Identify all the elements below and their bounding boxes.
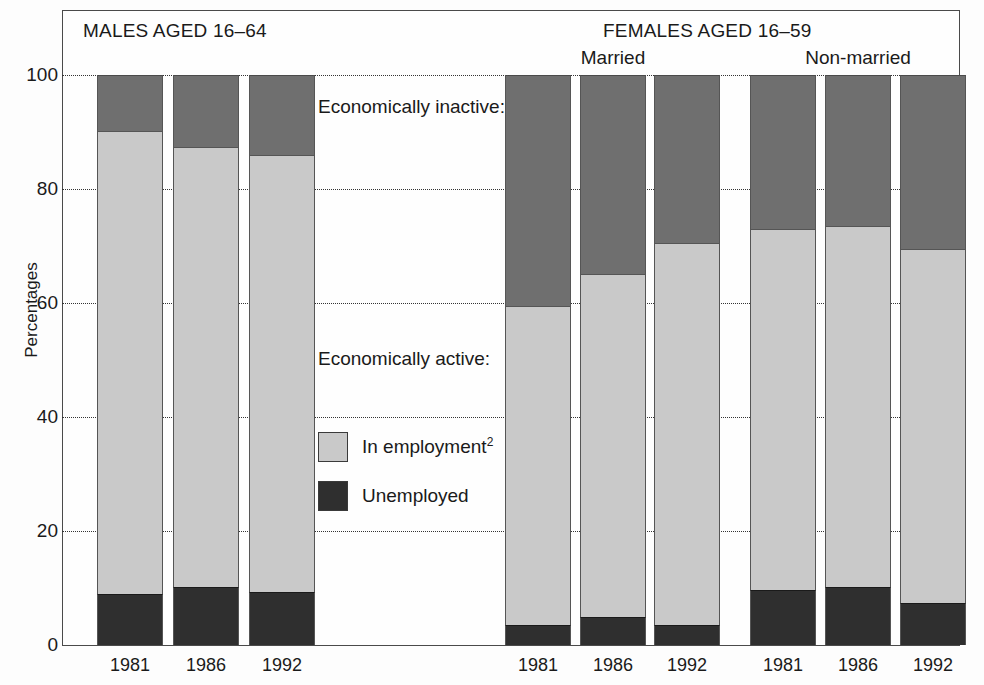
group-title-males: MALES AGED 16–64 bbox=[83, 20, 267, 42]
y-axis-title: Percentages bbox=[22, 220, 42, 400]
segment-employed bbox=[97, 131, 163, 594]
bar-males-1981 bbox=[97, 75, 163, 645]
sub-title-non-married: Non-married bbox=[805, 47, 911, 69]
segment-unemployed bbox=[505, 625, 571, 645]
segment-unemployed bbox=[580, 617, 646, 645]
plot-area bbox=[62, 75, 960, 645]
legend-inactive-group: Economically inactive: bbox=[318, 96, 498, 118]
legend-item-unemployed: Unemployed bbox=[318, 481, 469, 511]
x-label-non-married-1992: 1992 bbox=[913, 655, 953, 676]
legend-item-in-employment: In employment2 bbox=[318, 432, 493, 462]
y-axis-ticks: 100 80 60 40 20 0 Percentages bbox=[0, 0, 58, 685]
x-label-married-1986: 1986 bbox=[593, 655, 633, 676]
segment-employed bbox=[249, 155, 315, 592]
legend-label-in-employment-text: In employment bbox=[362, 437, 487, 458]
segment-employed bbox=[750, 229, 816, 590]
legend-active-heading: Economically active: bbox=[318, 348, 490, 370]
segment-inactive bbox=[249, 75, 315, 155]
segment-unemployed bbox=[173, 587, 239, 645]
bar-males-1986 bbox=[173, 75, 239, 645]
y-tick-100: 100 bbox=[8, 64, 58, 86]
legend-label-unemployed: Unemployed bbox=[362, 485, 469, 507]
legend-label-in-employment: In employment2 bbox=[362, 435, 493, 458]
segment-employed bbox=[654, 243, 720, 625]
segment-inactive bbox=[654, 75, 720, 243]
bar-married-1986 bbox=[580, 75, 646, 645]
segment-unemployed bbox=[750, 590, 816, 645]
legend-swatch-in-employment-icon bbox=[318, 432, 348, 462]
y-tick-0: 0 bbox=[8, 634, 58, 656]
bar-married-1992 bbox=[654, 75, 720, 645]
segment-unemployed bbox=[97, 594, 163, 645]
bar-non-married-1981 bbox=[750, 75, 816, 645]
segment-inactive bbox=[97, 75, 163, 131]
chart-figure: 100 80 60 40 20 0 Percentages bbox=[0, 0, 984, 685]
group-title-females: FEMALES AGED 16–59 bbox=[603, 20, 811, 42]
x-label-males-1981: 1981 bbox=[110, 655, 150, 676]
segment-employed bbox=[580, 274, 646, 617]
legend-inactive-heading: Economically inactive: bbox=[318, 96, 498, 118]
x-label-males-1986: 1986 bbox=[186, 655, 226, 676]
legend-label-in-employment-footnote: 2 bbox=[487, 435, 494, 449]
segment-unemployed bbox=[249, 592, 315, 645]
x-label-married-1981: 1981 bbox=[518, 655, 558, 676]
segment-unemployed bbox=[825, 587, 891, 645]
segment-inactive bbox=[580, 75, 646, 274]
segment-inactive bbox=[825, 75, 891, 226]
segment-inactive bbox=[900, 75, 966, 249]
legend-swatch-unemployed-icon bbox=[318, 481, 348, 511]
x-label-married-1992: 1992 bbox=[667, 655, 707, 676]
segment-inactive bbox=[173, 75, 239, 147]
y-tick-40: 40 bbox=[8, 406, 58, 428]
segment-employed bbox=[173, 147, 239, 587]
bar-married-1981 bbox=[505, 75, 571, 645]
bar-males-1992 bbox=[249, 75, 315, 645]
segment-inactive bbox=[505, 75, 571, 306]
x-label-non-married-1981: 1981 bbox=[763, 655, 803, 676]
segment-employed bbox=[505, 306, 571, 625]
x-label-non-married-1986: 1986 bbox=[838, 655, 878, 676]
segment-inactive bbox=[750, 75, 816, 229]
segment-employed bbox=[900, 249, 966, 602]
y-tick-20: 20 bbox=[8, 520, 58, 542]
segment-employed bbox=[825, 226, 891, 587]
segment-unemployed bbox=[654, 625, 720, 645]
bar-non-married-1992 bbox=[900, 75, 966, 645]
bar-non-married-1986 bbox=[825, 75, 891, 645]
x-label-males-1992: 1992 bbox=[262, 655, 302, 676]
y-tick-80: 80 bbox=[8, 178, 58, 200]
segment-unemployed bbox=[900, 603, 966, 645]
sub-title-married: Married bbox=[581, 47, 645, 69]
gridline-0 bbox=[62, 645, 960, 646]
